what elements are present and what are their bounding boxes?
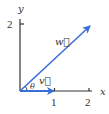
x-axis-label: x [100, 86, 106, 97]
vector-w-label: w⃗ [55, 36, 70, 47]
x-tick-label-1: 1 [51, 96, 57, 108]
vector-v-label: v⃗ [39, 75, 51, 86]
angle-theta-label: θ [30, 82, 35, 91]
y-axis-label: y [17, 3, 24, 14]
vector-diagram: y 2 x 1 2 θ w⃗ v⃗ [0, 0, 109, 114]
x-tick-label-2: 2 [85, 96, 91, 108]
y-tick-label-2: 2 [7, 18, 13, 30]
